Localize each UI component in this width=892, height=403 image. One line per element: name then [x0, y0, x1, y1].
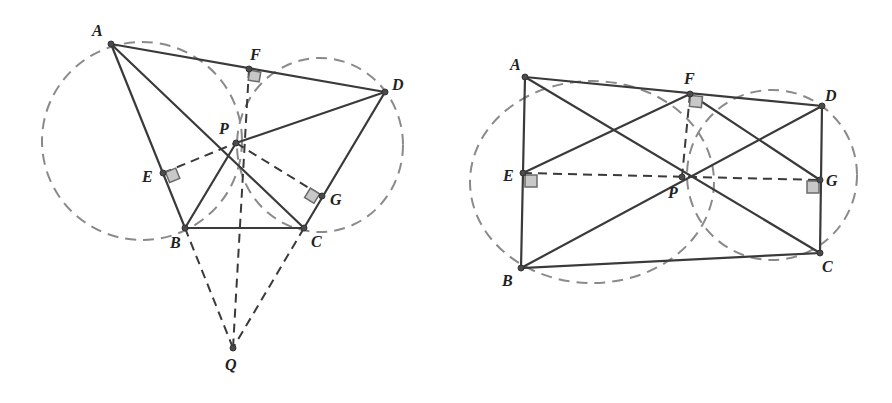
right-figure: A F D E P G B C	[470, 56, 857, 289]
point-F	[246, 66, 252, 72]
right-angle-E	[525, 175, 537, 187]
point-C	[817, 250, 823, 256]
segment-BQ	[185, 228, 233, 348]
label-E: E	[141, 168, 153, 185]
point-E	[160, 170, 166, 176]
point-P	[679, 174, 685, 180]
label-B: B	[169, 234, 181, 251]
segment-PD	[236, 92, 385, 143]
left-figure: A F D P E G B C Q	[42, 22, 404, 373]
right-angle-G	[305, 188, 320, 203]
quadrilateral-ABCD	[521, 77, 822, 268]
label-A: A	[509, 56, 521, 73]
geometry-diagram: A F D P E G B C Q A	[0, 0, 892, 403]
segment-EG	[523, 173, 820, 180]
point-E	[520, 170, 526, 176]
label-A: A	[91, 22, 103, 39]
label-Q: Q	[225, 356, 237, 373]
label-D: D	[824, 87, 837, 104]
segment-CQ	[233, 228, 304, 348]
point-B	[182, 225, 188, 231]
label-P: P	[218, 120, 229, 137]
label-G: G	[330, 191, 342, 208]
point-A	[108, 41, 114, 47]
label-D: D	[391, 76, 404, 93]
left-circle-2	[237, 58, 403, 232]
point-D	[382, 89, 388, 95]
label-B: B	[501, 272, 513, 289]
point-F	[687, 91, 693, 97]
point-B	[518, 265, 524, 271]
label-C: C	[822, 258, 833, 275]
segment-BP	[185, 143, 236, 228]
point-P	[233, 140, 239, 146]
right-angle-G	[807, 181, 819, 193]
label-C: C	[311, 233, 322, 250]
point-G	[319, 193, 325, 199]
label-F: F	[683, 70, 695, 87]
point-G	[817, 177, 823, 183]
point-Q	[230, 345, 236, 351]
label-P: P	[667, 184, 678, 201]
point-C	[301, 225, 307, 231]
label-F: F	[249, 46, 261, 63]
segment-FQ	[233, 69, 249, 348]
label-E: E	[502, 167, 514, 184]
point-A	[522, 74, 528, 80]
right-angle-F	[689, 95, 702, 107]
label-G: G	[826, 172, 838, 189]
